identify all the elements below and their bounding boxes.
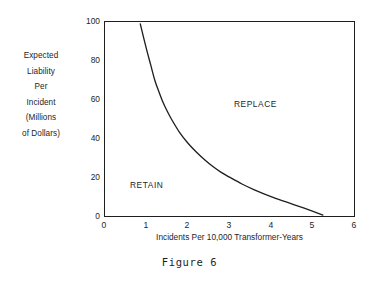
y-axis-title-line: Per [4, 79, 78, 95]
y-axis-tick-label: 100 [74, 17, 100, 26]
y-axis-tick-label: 40 [74, 134, 100, 143]
y-axis-title-line: Expected [4, 48, 78, 64]
region-label-retain: RETAIN [130, 180, 163, 190]
y-axis-tick-label: 60 [74, 95, 100, 104]
x-axis-tick-label: 1 [137, 221, 155, 230]
y-axis-title-line: of Dollars) [4, 126, 78, 142]
figure-container: Expected Liability Per Incident (Million… [0, 0, 379, 281]
plot-area: REPLACE RETAIN [104, 21, 355, 217]
x-axis-tick-label: 4 [262, 221, 280, 230]
y-axis-title-line: (Millions [4, 110, 78, 126]
region-label-replace: REPLACE [234, 99, 277, 109]
x-axis-tick-label: 2 [178, 221, 196, 230]
figure-caption: Figure 6 [0, 256, 379, 268]
x-axis-tick-label: 3 [220, 221, 238, 230]
x-axis-tick-label: 6 [345, 221, 363, 230]
x-axis-title: Incidents Per 10,000 Transformer-Years [104, 232, 355, 242]
y-axis-tick-label: 0 [74, 212, 100, 221]
x-axis-tick-label: 5 [303, 221, 321, 230]
x-axis-tick-label: 0 [95, 221, 113, 230]
y-axis-title: Expected Liability Per Incident (Million… [4, 48, 78, 142]
y-axis-title-line: Incident [4, 95, 78, 111]
y-axis-tick-label: 20 [74, 173, 100, 182]
y-axis-tick-label: 80 [74, 56, 100, 65]
y-axis-title-line: Liability [4, 64, 78, 80]
